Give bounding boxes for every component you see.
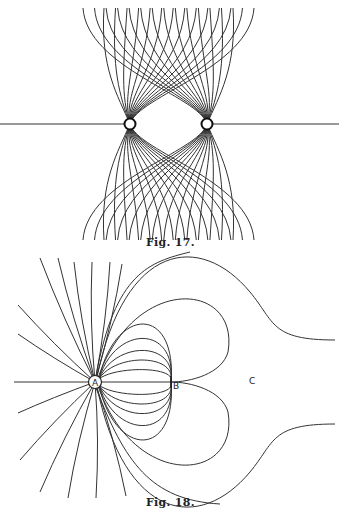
label-b: B [173, 381, 179, 391]
field-line [95, 8, 207, 124]
field-line [40, 258, 95, 382]
field-line [99, 370, 171, 382]
fig17-diagram: A B C [0, 0, 339, 516]
field-line [95, 124, 207, 240]
field-line [95, 262, 110, 382]
charge-right-icon [202, 119, 213, 130]
label-a: A [92, 378, 99, 388]
field-line [99, 382, 171, 414]
field-line [97, 387, 335, 507]
field-line [98, 299, 229, 382]
field-line [95, 382, 98, 498]
label-c: C [249, 376, 255, 386]
field-line [91, 262, 95, 382]
fig18-field-lines [18, 252, 335, 507]
fig18-caption: Fig. 18. [146, 496, 195, 509]
field-line [40, 382, 95, 492]
charge-left-icon [125, 119, 136, 130]
field-line [98, 382, 229, 465]
field-line [68, 382, 95, 498]
field-line [18, 305, 95, 382]
field-line [97, 257, 335, 377]
field-line [130, 8, 242, 124]
field-line [99, 350, 171, 382]
field-line [18, 382, 95, 413]
field-line [130, 124, 242, 240]
field-line [99, 382, 171, 394]
fig17-caption: Fig. 17. [146, 236, 195, 249]
